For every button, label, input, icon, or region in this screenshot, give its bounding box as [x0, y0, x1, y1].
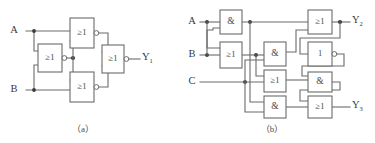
circuit-a-group: ≥1 ≥1 ≥1 ≥1 A B — [10, 18, 153, 102]
wire-a-a-branch — [34, 31, 38, 51]
gate-a-g1-symbol: ≥1 — [78, 27, 87, 37]
gate-b-g9-symbol: ≥1 — [316, 101, 325, 111]
wire-b-b-branch — [207, 28, 220, 55]
gate-a-g3-symbol: ≥1 — [78, 81, 87, 91]
gate-b-g7-bubble-icon — [332, 52, 337, 57]
gate-b-g1-symbol: & — [227, 16, 235, 26]
output-label-a-y1-subscript: 1 — [150, 57, 153, 64]
gate-b-g7-symbol: 1 — [318, 48, 322, 58]
gate-b-g3-symbol: & — [271, 48, 279, 58]
gate-a-g1-bubble-icon — [94, 31, 99, 36]
circuit-canvas: ≥1 ≥1 ≥1 ≥1 A B — [0, 0, 375, 143]
gate-a-g1-nor: ≥1 — [70, 18, 99, 48]
wire-b-g1-to-g5 — [250, 22, 264, 102]
gate-b-g6-symbol: ≥1 — [316, 16, 325, 26]
gate-a-g2-bubble-icon — [62, 56, 67, 61]
wire-b-a-branch — [207, 22, 220, 48]
gate-b-g2-or: ≥1 — [220, 42, 242, 68]
gate-a-g3-nor: ≥1 — [70, 72, 99, 102]
junction-a-b — [32, 88, 36, 92]
input-label-a-a: A — [10, 24, 18, 35]
gate-a-g3-bubble-icon — [94, 85, 99, 90]
input-label-b-c: C — [188, 75, 195, 86]
input-label-a-b: B — [10, 83, 17, 94]
gate-b-g8-and: & — [308, 72, 332, 92]
input-label-b-a: A — [188, 15, 196, 26]
logic-circuit-figure: ≥1 ≥1 ≥1 ≥1 A B — [0, 0, 375, 143]
caption-b: （b） — [261, 124, 284, 134]
gate-b-g6-or: ≥1 — [308, 10, 332, 34]
gate-b-g9-or: ≥1 — [308, 96, 332, 118]
gate-b-g5-symbol: & — [271, 101, 279, 111]
gate-a-g2-symbol: ≥1 — [46, 52, 55, 62]
output-label-b-y2-subscript: 2 — [360, 20, 363, 27]
gate-a-g4-nor: ≥1 — [102, 45, 129, 73]
wire-b-g2-to-g4 — [256, 55, 264, 76]
wire-a-b-branch — [34, 65, 38, 90]
circuit-b-group: & ≥1 & ≥1 & — [188, 10, 363, 118]
junction-a-a — [32, 29, 36, 33]
input-label-b-b: B — [188, 48, 195, 59]
gate-b-g1-and: & — [220, 10, 242, 34]
gate-b-g4-or: ≥1 — [264, 70, 286, 92]
wire-b-g3-out — [286, 30, 308, 52]
gate-a-g2-nor: ≥1 — [38, 44, 67, 72]
gate-a-g4-symbol: ≥1 — [109, 53, 118, 63]
output-label-b-y3-subscript: 3 — [360, 105, 363, 112]
wire-b-c-branch-up — [245, 60, 264, 82]
gate-b-g4-symbol: ≥1 — [271, 75, 280, 85]
gate-b-g8-symbol: & — [316, 76, 324, 86]
gate-b-g3-and: & — [264, 42, 286, 66]
gate-b-g5-and: & — [264, 96, 286, 118]
gate-b-g7-not: 1 — [308, 42, 337, 66]
caption-a: （a） — [72, 124, 94, 134]
wire-b-c-branch-down — [245, 82, 264, 112]
gate-b-g2-symbol: ≥1 — [227, 49, 236, 59]
gate-a-g4-bubble-icon — [124, 57, 129, 62]
